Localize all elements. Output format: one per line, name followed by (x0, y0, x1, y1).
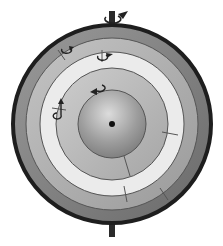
core-center-dot (109, 121, 115, 127)
concentric-shells-diagram (0, 0, 223, 246)
diagram-canvas (0, 0, 223, 246)
axis-rotation-icon (105, 11, 128, 23)
